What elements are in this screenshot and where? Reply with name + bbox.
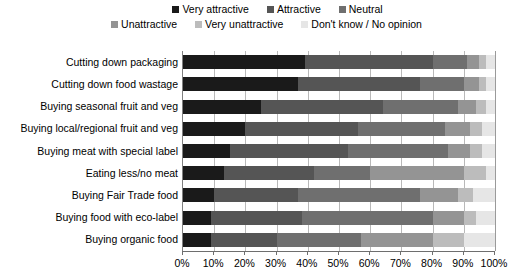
bar-segment — [361, 233, 433, 247]
legend-item-neutral: Neutral — [339, 4, 383, 15]
bar-segment — [298, 188, 420, 202]
bar-segment — [486, 77, 495, 91]
bar-series-container — [183, 51, 495, 251]
x-axis-tick-label: 100% — [481, 257, 508, 269]
bar-segment — [458, 100, 477, 114]
legend-item-attractive: Attractive — [267, 4, 321, 15]
x-axis-tick — [463, 251, 464, 255]
bar-segment — [183, 188, 214, 202]
legend-label-very-attractive: Very attractive — [182, 4, 249, 15]
bar-segment — [433, 233, 464, 247]
bar-segment — [464, 211, 476, 225]
bar-row — [183, 77, 495, 91]
bar-segment — [470, 144, 482, 158]
bar-segment — [314, 166, 370, 180]
bar-row — [183, 233, 495, 247]
category-label: Eating less/no meat — [0, 168, 178, 179]
x-axis-tick — [369, 251, 370, 255]
bar-segment — [433, 55, 467, 69]
bar-segment — [183, 100, 261, 114]
bar-segment — [433, 211, 464, 225]
bar-row — [183, 144, 495, 158]
bar-segment — [486, 55, 495, 69]
x-axis-tick — [400, 251, 401, 255]
bar-segment — [448, 144, 470, 158]
bar-segment — [420, 77, 464, 91]
bar-segment — [183, 166, 224, 180]
x-axis-tick — [244, 251, 245, 255]
x-axis-tick-label: 30% — [265, 257, 286, 269]
bar-segment — [211, 233, 277, 247]
x-axis-tick — [307, 251, 308, 255]
category-label: Buying local/regional fruit and veg — [0, 123, 178, 134]
bar-segment — [261, 100, 383, 114]
category-label: Buying seasonal fruit and veg — [0, 101, 178, 112]
bar-row — [183, 55, 495, 69]
legend-label-neutral: Neutral — [349, 4, 383, 15]
bar-row — [183, 100, 495, 114]
bar-segment — [305, 55, 433, 69]
bar-segment — [348, 144, 448, 158]
bar-segment — [464, 166, 486, 180]
plot-area — [182, 51, 496, 251]
stacked-bar-chart: Very attractive Attractive Neutral Unatt… — [0, 0, 509, 280]
bar-segment — [467, 55, 479, 69]
legend-label-very-unattractive: Very unattractive — [205, 19, 283, 30]
legend-label-attractive: Attractive — [277, 4, 321, 15]
bar-segment — [211, 211, 301, 225]
x-axis-tick — [494, 251, 495, 255]
legend-item-unattractive: Unattractive — [111, 19, 177, 30]
x-axis-tick-label: 10% — [203, 257, 224, 269]
legend-swatch-very-unattractive — [195, 21, 202, 28]
bar-segment — [420, 188, 457, 202]
category-label: Buying food with eco-label — [0, 212, 178, 223]
bar-segment — [245, 122, 357, 136]
bar-segment — [476, 100, 485, 114]
category-label: Buying organic food — [0, 234, 178, 245]
legend-row-2: Unattractive Very unattractive Don't kno… — [0, 17, 509, 32]
x-axis-tick — [338, 251, 339, 255]
bar-row — [183, 166, 495, 180]
bar-segment — [482, 144, 494, 158]
bar-segment — [277, 233, 361, 247]
legend-swatch-dont-know — [301, 21, 308, 28]
bar-segment — [370, 166, 464, 180]
legend-item-dont-know: Don't know / No opinion — [301, 19, 422, 30]
bar-segment — [445, 122, 470, 136]
x-axis-tick — [432, 251, 433, 255]
bar-segment — [473, 188, 495, 202]
x-axis-tick — [182, 251, 183, 255]
x-axis-tick-label: 20% — [234, 257, 255, 269]
x-axis-tick-label: 70% — [390, 257, 411, 269]
legend-item-very-unattractive: Very unattractive — [195, 19, 283, 30]
bar-row — [183, 211, 495, 225]
bar-segment — [458, 188, 474, 202]
bar-segment — [183, 233, 211, 247]
x-axis-tick-label: 0% — [174, 257, 189, 269]
bar-segment — [486, 100, 495, 114]
category-label: Buying Fair Trade food — [0, 190, 178, 201]
x-axis-tick-label: 50% — [327, 257, 348, 269]
bar-segment — [464, 233, 495, 247]
bar-segment — [214, 188, 298, 202]
legend-swatch-attractive — [267, 6, 274, 13]
bar-segment — [464, 77, 480, 91]
x-axis-tick-label: 90% — [452, 257, 473, 269]
bar-row — [183, 122, 495, 136]
category-label: Cutting down food wastage — [0, 79, 178, 90]
legend-label-dont-know: Don't know / No opinion — [311, 19, 422, 30]
legend-row-1: Very attractive Attractive Neutral — [0, 2, 509, 17]
x-axis-tick — [276, 251, 277, 255]
legend-swatch-neutral — [339, 6, 346, 13]
bar-segment — [183, 144, 230, 158]
bar-segment — [486, 166, 495, 180]
legend-label-unattractive: Unattractive — [121, 19, 177, 30]
category-axis-labels: Cutting down packagingCutting down food … — [0, 51, 178, 251]
bar-segment — [470, 122, 482, 136]
legend-swatch-unattractive — [111, 21, 118, 28]
chart-legend: Very attractive Attractive Neutral Unatt… — [0, 2, 509, 32]
legend-item-very-attractive: Very attractive — [172, 4, 249, 15]
x-axis-tick-label: 80% — [421, 257, 442, 269]
bar-segment — [476, 211, 495, 225]
x-axis-tick — [213, 251, 214, 255]
